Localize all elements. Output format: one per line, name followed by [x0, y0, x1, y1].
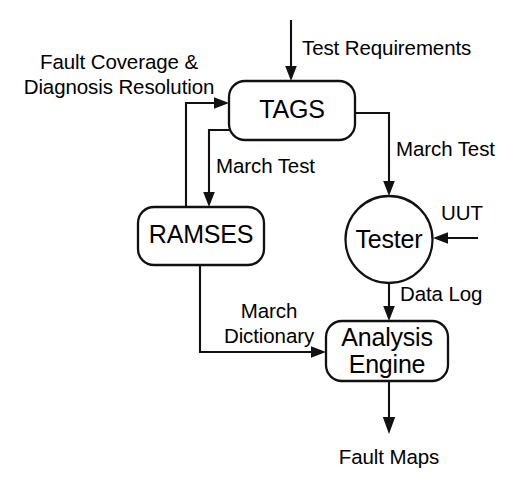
edge-label-march-dictionary-line2: Dictionary [222, 323, 316, 348]
edge-uut [433, 232, 478, 244]
edge-label-march-dictionary: March Dictionary [222, 298, 316, 348]
node-tags-shape[interactable] [229, 81, 355, 140]
edge-tags-to-tester [355, 113, 395, 196]
node-tester-shape[interactable] [346, 196, 433, 283]
node-analysis-engine-shape[interactable] [326, 321, 448, 381]
edge-label-march-dictionary-line1: March [222, 298, 316, 323]
edge-label-fault-maps: Fault Maps [329, 445, 449, 469]
edge-tester-to-analysis [383, 283, 395, 321]
edge-test-requirements [285, 20, 297, 81]
edge-ramses-to-tags-feedback [186, 97, 229, 207]
edge-label-march-test-to-tester: March Test [396, 137, 495, 161]
node-ramses-shape[interactable] [138, 207, 264, 265]
block-diagram: TAGS RAMSES Tester Analysis Engine Test … [0, 0, 530, 490]
edge-label-feedback: Fault Coverage & Diagnosis Resolution [18, 49, 220, 99]
edge-label-feedback-line2: Diagnosis Resolution [18, 74, 220, 99]
edge-label-uut: UUT [441, 201, 483, 225]
edge-label-test-requirements: Test Requirements [302, 36, 471, 60]
edge-label-march-test-to-ramses: March Test [216, 154, 315, 178]
edge-label-data-log: Data Log [400, 282, 482, 306]
edge-label-feedback-line1: Fault Coverage & [18, 49, 220, 74]
edge-fault-maps [383, 381, 395, 434]
